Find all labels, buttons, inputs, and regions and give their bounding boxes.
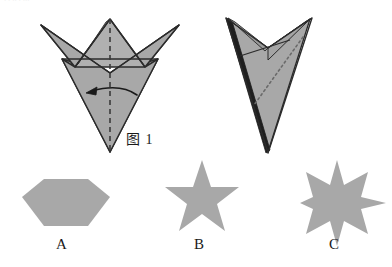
option-b-shape-group[interactable] [165, 160, 239, 231]
option-a-shape-group[interactable] [22, 179, 110, 226]
hexagon-shape[interactable] [22, 179, 110, 226]
option-label-c: C [329, 237, 339, 252]
figure2-body [228, 19, 310, 152]
figure2-origami-folded [226, 18, 312, 153]
figure-page: · · ·· · ··· [0, 0, 392, 267]
figure-1-caption: 图 1 [126, 133, 154, 147]
diagram-canvas [0, 0, 392, 267]
option-c-shape-group[interactable] [300, 160, 386, 246]
five-pointed-star-shape[interactable] [165, 160, 239, 231]
figure1-origami [41, 19, 179, 152]
six-pointed-star-shape[interactable] [300, 160, 386, 246]
option-label-b: B [194, 237, 204, 252]
option-label-a: A [56, 237, 67, 252]
